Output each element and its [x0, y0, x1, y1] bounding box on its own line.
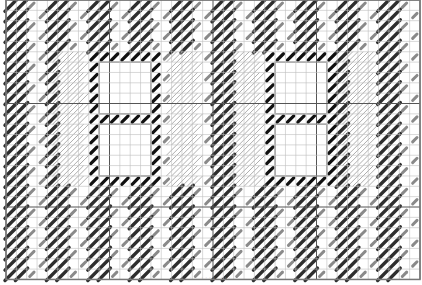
mid-stitch — [40, 158, 44, 162]
hatch-stitch — [68, 83, 78, 93]
mid-stitch — [413, 262, 417, 266]
hatch-stitch — [78, 155, 88, 165]
mid-stitch — [71, 231, 75, 235]
black-stitch — [153, 74, 159, 80]
hatch-stitch — [368, 176, 378, 186]
hatch-stitch — [358, 145, 368, 155]
black-stitch — [91, 147, 97, 153]
mid-stitch — [320, 210, 324, 214]
hatch-stitch — [244, 83, 254, 93]
hatch-stitch — [358, 72, 368, 82]
mid-stitch — [288, 13, 292, 17]
hatch-stitch — [358, 114, 368, 124]
black-stitch — [287, 116, 293, 122]
black-stitch — [267, 54, 273, 60]
hatch-stitch — [78, 114, 88, 124]
black-stitch — [112, 178, 118, 184]
mid-stitch — [413, 96, 417, 100]
mid-stitch — [40, 179, 44, 183]
black-stitch — [101, 116, 107, 122]
black-stitch — [277, 54, 283, 60]
mid-stitch — [206, 158, 210, 162]
mid-stitch — [278, 189, 282, 193]
hatch-stitch — [358, 124, 368, 134]
mid-stitch — [278, 210, 282, 214]
mid-stitch — [361, 24, 365, 28]
mid-stitch — [330, 34, 334, 38]
hatch-stitch — [358, 135, 368, 145]
hatch-stitch — [254, 83, 264, 93]
hatch-stitch — [244, 124, 254, 134]
hatch-stitch — [172, 83, 182, 93]
hatch-stitch — [172, 124, 182, 134]
mid-stitch — [320, 231, 324, 235]
mid-stitch — [237, 189, 241, 193]
mid-stitch — [278, 231, 282, 235]
hatch-stitch — [192, 114, 202, 124]
hatch-stitch — [68, 114, 78, 124]
mid-stitch — [206, 138, 210, 142]
hatch-stitch — [68, 62, 78, 72]
mid-stitch — [371, 34, 375, 38]
hatch-stitch — [244, 72, 254, 82]
hatch-stitch — [182, 83, 192, 93]
black-stitch — [153, 126, 159, 132]
hatch-stitch — [244, 166, 254, 176]
mid-stitch — [413, 55, 417, 59]
black-stitch — [153, 157, 159, 163]
mid-stitch — [413, 117, 417, 121]
black-stitch — [153, 178, 159, 184]
mid-stitch — [164, 96, 168, 100]
black-stitch — [153, 106, 159, 112]
mid-stitch — [195, 231, 199, 235]
mid-stitch — [40, 55, 44, 59]
mid-stitch — [206, 34, 210, 38]
hatch-stitch — [192, 72, 202, 82]
mid-stitch — [30, 107, 34, 111]
black-stitch — [308, 178, 314, 184]
black-stitch — [153, 137, 159, 143]
mid-stitch — [288, 220, 292, 224]
mid-stitch — [71, 210, 75, 214]
mid-stitch — [71, 3, 75, 7]
hatch-stitch — [254, 145, 264, 155]
black-stitch — [153, 95, 159, 101]
black-stitch — [329, 178, 335, 184]
hatch-stitch — [368, 83, 378, 93]
black-stitch — [101, 178, 107, 184]
hatch-stitch — [78, 124, 88, 134]
mid-stitch — [123, 200, 127, 204]
black-stitch — [329, 168, 335, 174]
mid-stitch — [288, 34, 292, 38]
mid-stitch — [113, 24, 117, 28]
black-stitch — [132, 178, 138, 184]
mid-stitch — [30, 127, 34, 131]
black-stitch — [267, 106, 273, 112]
hatch-stitch — [244, 145, 254, 155]
hatch-stitch — [182, 135, 192, 145]
mid-stitch — [164, 117, 168, 121]
mid-stitch — [402, 3, 406, 7]
mid-stitch — [278, 24, 282, 28]
mid-stitch — [413, 179, 417, 183]
mid-stitch — [30, 86, 34, 90]
hatch-stitch — [358, 155, 368, 165]
mid-stitch — [40, 241, 44, 245]
mid-stitch — [413, 200, 417, 204]
black-stitch — [267, 178, 273, 184]
mid-stitch — [154, 24, 158, 28]
mid-stitch — [123, 34, 127, 38]
mid-stitch — [123, 262, 127, 266]
black-stitch — [329, 54, 335, 60]
black-stitch — [122, 54, 128, 60]
hatch-stitch — [368, 166, 378, 176]
hatch-stitch — [78, 176, 88, 186]
mid-stitch — [40, 262, 44, 266]
hatch-stitch — [78, 83, 88, 93]
black-stitch — [153, 116, 159, 122]
mid-stitch — [330, 200, 334, 204]
mid-stitch — [371, 220, 375, 224]
hatch-stitch — [254, 114, 264, 124]
black-stitch — [329, 137, 335, 143]
hatch-stitch — [358, 83, 368, 93]
